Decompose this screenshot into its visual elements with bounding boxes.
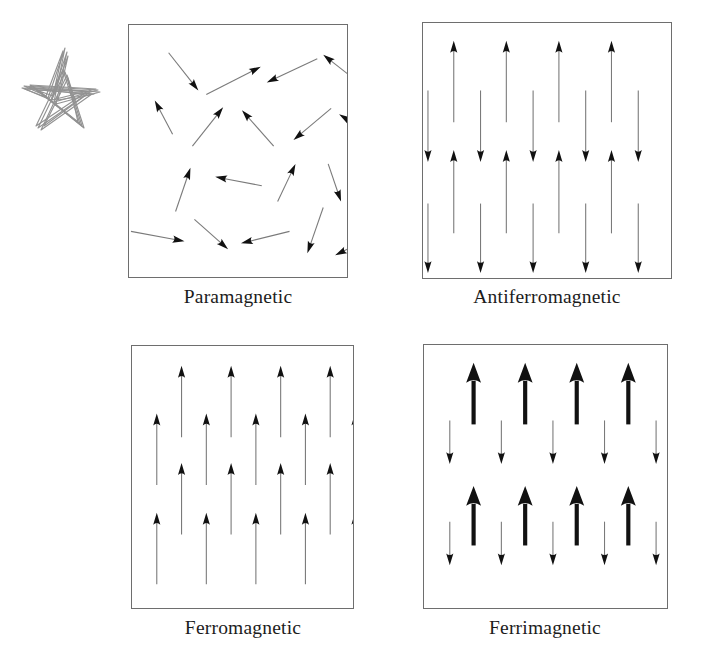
arrow-head (530, 150, 537, 162)
arrow-head (555, 150, 562, 162)
panel-ferromagnetic (131, 345, 354, 609)
arrow-head (277, 366, 284, 378)
arrow-shaft (344, 237, 347, 251)
arrow-head (153, 413, 160, 425)
arrow-head (498, 452, 505, 464)
arrow-head (228, 366, 235, 378)
arrow-head (327, 366, 334, 378)
arrow-head (203, 513, 210, 525)
arrow-head (569, 486, 584, 506)
arrow-head (582, 150, 589, 162)
arrow-head (477, 261, 484, 273)
arrow-head (424, 150, 431, 162)
arrow-shaft (159, 109, 172, 134)
arrow-head (498, 553, 505, 565)
arrow-head (518, 486, 533, 506)
arrow-head (621, 363, 636, 383)
arrow-head (477, 150, 484, 162)
arrow-head (327, 463, 334, 475)
magnetic-ordering-figure: Paramagnetic Antiferromagnetic Ferromagn… (0, 0, 702, 661)
arrow-shaft (301, 108, 331, 133)
arrow-shaft (169, 53, 193, 83)
panel-paramagnetic (128, 24, 348, 278)
arrow-head (530, 261, 537, 273)
arrow-shaft (311, 208, 324, 244)
panel-label-ferromagnetic: Ferromagnetic (128, 617, 358, 639)
arrow-head (601, 452, 608, 464)
arrow-head (466, 486, 481, 506)
arrow-shaft (176, 177, 188, 211)
arrow-head (555, 41, 562, 53)
arrow-head (608, 41, 615, 53)
arrow-head (635, 261, 642, 273)
arrow-head (339, 114, 347, 123)
arrow-head (503, 41, 510, 53)
arrow-head (188, 79, 198, 91)
arrow-head (503, 150, 510, 162)
arrow-head (287, 164, 295, 176)
arrow-head (608, 150, 615, 162)
arrow-head (277, 463, 284, 475)
arrow-head (518, 363, 533, 383)
arrow-shaft (192, 115, 217, 146)
arrow-head (549, 553, 556, 565)
arrow-head (549, 452, 556, 464)
panel-ferrimagnetic (423, 344, 668, 609)
arrow-head (446, 452, 453, 464)
arrow-head (178, 366, 185, 378)
arrow-shaft (225, 179, 262, 186)
arrow-head (267, 74, 279, 82)
paramagnetic-arrows (129, 25, 347, 277)
arrow-head (466, 363, 481, 383)
arrow-head (653, 553, 660, 565)
arrow-head (302, 413, 309, 425)
arrow-head (621, 486, 636, 506)
antiferromagnetic-arrows (423, 23, 671, 278)
arrow-head (582, 261, 589, 273)
arrow-head (155, 100, 164, 112)
arrow-shaft (276, 59, 318, 79)
arrow-head (203, 413, 210, 425)
arrow-shaft (194, 219, 220, 242)
arrow-head (351, 513, 353, 525)
arrow-head (178, 463, 185, 475)
arrow-head (569, 363, 584, 383)
arrow-head (450, 150, 457, 162)
hand-drawn-star-icon (18, 42, 110, 138)
arrow-head (252, 513, 259, 525)
arrow-head (351, 413, 353, 425)
arrow-head (446, 553, 453, 565)
arrow-shaft (206, 71, 252, 94)
arrow-shaft (278, 173, 292, 202)
arrow-head (653, 452, 660, 464)
arrow-shaft (251, 231, 290, 241)
arrow-head (323, 55, 335, 65)
panel-label-antiferromagnetic: Antiferromagnetic (407, 286, 687, 308)
panel-label-paramagnetic: Paramagnetic (128, 286, 348, 308)
ferromagnetic-arrows (132, 346, 353, 608)
arrow-head (424, 261, 431, 273)
panel-label-ferrimagnetic: Ferrimagnetic (420, 617, 670, 639)
arrow-head (228, 463, 235, 475)
ferrimagnetic-arrows (424, 345, 667, 608)
arrow-head (213, 107, 223, 119)
arrow-shaft (328, 164, 338, 192)
arrow-head (635, 150, 642, 162)
panel-antiferromagnetic (422, 22, 672, 279)
arrow-head (302, 513, 309, 525)
arrow-head (153, 513, 160, 525)
arrow-head (252, 413, 259, 425)
arrow-shaft (331, 61, 347, 87)
arrow-shaft (249, 118, 274, 146)
arrow-head (249, 67, 261, 76)
arrow-head (335, 247, 347, 255)
arrow-head (601, 553, 608, 565)
arrow-head (450, 41, 457, 53)
arrow-shaft (131, 231, 175, 239)
